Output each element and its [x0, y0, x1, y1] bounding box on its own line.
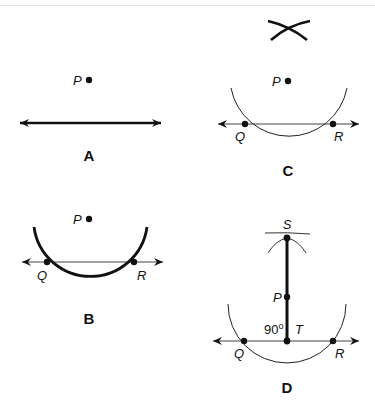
point-q-label: Q — [235, 129, 245, 144]
point-r-label: R — [334, 129, 343, 144]
point-r — [330, 338, 336, 344]
arc-from-q — [265, 233, 310, 234]
point-p-label: P — [73, 73, 82, 88]
point-r-label: R — [335, 346, 344, 361]
point-r — [330, 121, 336, 127]
point-p — [284, 294, 290, 300]
arc-centered-p — [231, 88, 347, 136]
panel-b: P Q R B — [22, 212, 163, 327]
point-t-label: T — [295, 322, 304, 337]
panel-label-d: D — [282, 379, 293, 396]
point-q-label: Q — [37, 268, 47, 283]
point-p-label: P — [73, 212, 82, 227]
arc-centered-p — [34, 227, 147, 276]
panel-c: P Q R C — [218, 21, 359, 179]
point-q — [44, 259, 50, 265]
point-q — [241, 338, 247, 344]
point-q — [242, 121, 248, 127]
angle-label: 90o — [264, 321, 283, 337]
panel-a: P A — [20, 73, 161, 164]
point-p — [285, 78, 291, 84]
panel-label-a: A — [84, 147, 95, 164]
point-p — [86, 216, 92, 222]
point-t — [284, 338, 291, 345]
point-r-label: R — [137, 268, 146, 283]
geometry-construction-figure: P A P Q R C P Q R B S P — [0, 0, 375, 405]
point-q-label: Q — [234, 346, 244, 361]
point-s — [284, 235, 291, 242]
point-p-label: P — [273, 290, 282, 305]
point-p-label: P — [272, 74, 281, 89]
panel-d: S P 90o T Q R D — [213, 217, 359, 396]
panel-label-b: B — [84, 310, 95, 327]
point-r — [131, 259, 137, 265]
panel-label-c: C — [283, 162, 294, 179]
point-s-label: S — [283, 217, 292, 232]
point-p — [86, 77, 92, 83]
